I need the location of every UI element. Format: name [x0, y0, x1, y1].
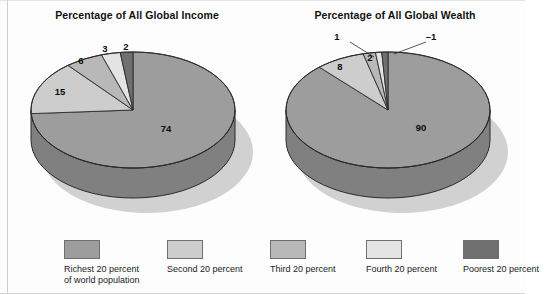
pie-svg-income — [8, 24, 266, 224]
pie-chart-global-wealth: Percentage of All Global Wealth 90 8 2 1… — [266, 0, 524, 232]
legend-label-third: Third 20 percent — [270, 264, 374, 275]
legend-item-poorest: Poorest 20 percent — [463, 232, 544, 275]
legend-swatch-fourth — [366, 240, 402, 259]
pie-stage-income: 74 15 6 3 2 — [8, 24, 266, 224]
legend: Richest 20 percent of world population S… — [8, 232, 517, 294]
pie-stage-wealth: 90 8 2 1 –1 — [266, 24, 524, 224]
legend-swatch-poorest — [463, 240, 499, 259]
slice-value-income-fourth: 3 — [102, 43, 107, 54]
pie-svg-wealth — [266, 24, 524, 224]
legend-swatch-third — [270, 240, 306, 259]
slice-value-income-second: 15 — [55, 86, 66, 97]
slice-value-wealth-fourth: 1 — [334, 31, 339, 42]
slice-value-wealth-richest: 90 — [416, 122, 427, 133]
legend-label-fourth: Fourth 20 percent — [366, 264, 470, 275]
slice-value-income-richest: 74 — [161, 123, 172, 134]
legend-label-second: Second 20 percent — [167, 264, 271, 275]
legend-item-third: Third 20 percent — [270, 232, 374, 275]
slice-value-income-third: 6 — [78, 55, 83, 66]
legend-swatch-second — [167, 240, 203, 259]
chart-title-wealth: Percentage of All Global Wealth — [266, 9, 524, 21]
chart-title-income: Percentage of All Global Income — [8, 9, 266, 21]
slice-value-wealth-third: 2 — [367, 52, 372, 63]
legend-item-second: Second 20 percent — [167, 232, 271, 275]
pie-chart-global-income: Percentage of All Global Income 74 15 6 … — [8, 0, 266, 232]
legend-label-poorest: Poorest 20 percent — [463, 264, 544, 275]
legend-swatch-richest — [64, 240, 100, 259]
legend-item-fourth: Fourth 20 percent — [366, 232, 470, 275]
legend-label-richest: Richest 20 percent of world population — [64, 264, 168, 286]
legend-item-richest: Richest 20 percent of world population — [64, 232, 168, 286]
slice-value-wealth-second: 8 — [337, 61, 342, 72]
slice-value-wealth-poorest: –1 — [426, 31, 437, 42]
slice-value-income-poorest: 2 — [123, 41, 128, 52]
